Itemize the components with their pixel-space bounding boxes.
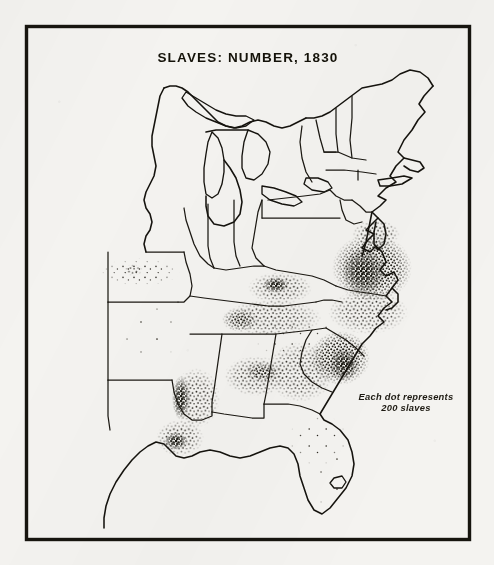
dot-cloud-missouri-core xyxy=(118,258,152,284)
dot-cloud-west-tennessee xyxy=(218,304,266,338)
map-title: SLAVES: NUMBER, 1830 xyxy=(157,50,338,65)
dot-cloud-arkansas xyxy=(115,298,189,368)
map-plate-page: SLAVES: NUMBER, 1830 xyxy=(0,0,494,565)
legend-line-2: 200 slaves xyxy=(380,402,430,413)
dot-cloud-natchez-river-belt xyxy=(170,372,194,426)
dot-cloud-louisiana-sugar-parishes xyxy=(162,430,192,452)
dot-cloud-kentucky-bluegrass xyxy=(260,274,294,298)
dot-cloud-alabama-black-belt xyxy=(242,358,284,386)
legend-line-1: Each dot represents xyxy=(359,391,454,402)
slaves-1830-dot-map: SLAVES: NUMBER, 1830 xyxy=(0,0,494,565)
